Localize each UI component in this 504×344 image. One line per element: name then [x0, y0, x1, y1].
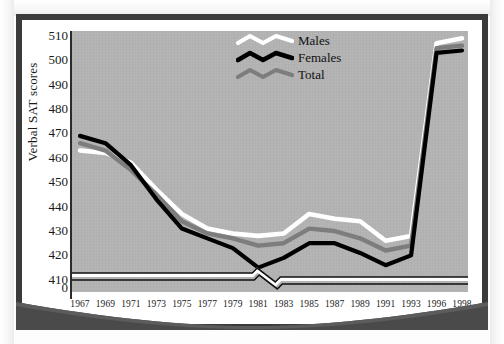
y-tick-label: 430: [34, 224, 68, 237]
y-axis-line: [70, 31, 72, 299]
y-tick-label: 420: [34, 248, 68, 261]
page-edge-right: [490, 0, 504, 344]
figure-page: Verbal SAT scores 4104204304404504604704…: [0, 0, 504, 344]
legend-item-total: Total: [236, 66, 386, 83]
y-tick-label: 490: [34, 78, 68, 91]
y-tick-label: 510: [34, 29, 68, 42]
legend-swatch-females-icon: [236, 49, 294, 65]
legend-item-males: Males: [236, 32, 386, 49]
chart-legend: Males Females Total: [236, 32, 386, 83]
y-tick-label-zero: 0: [34, 281, 68, 294]
legend-swatch-total-icon: [236, 66, 294, 82]
legend-label-females: Females: [298, 50, 341, 66]
y-tick-label: 480: [34, 102, 68, 115]
page-curl-shadow: [16, 296, 488, 330]
legend-swatch-males-icon: [236, 32, 294, 48]
legend-label-males: Males: [298, 33, 330, 49]
y-tick-label: 460: [34, 151, 68, 164]
page-edge-left: [0, 0, 14, 344]
y-axis-ticks: 4104204304404504604704804905005100: [30, 0, 68, 344]
legend-label-total: Total: [298, 67, 325, 83]
y-tick-label: 450: [34, 175, 68, 188]
y-tick-label: 470: [34, 126, 68, 139]
y-tick-label: 500: [34, 53, 68, 66]
y-tick-label: 440: [34, 200, 68, 213]
legend-item-females: Females: [236, 49, 386, 66]
